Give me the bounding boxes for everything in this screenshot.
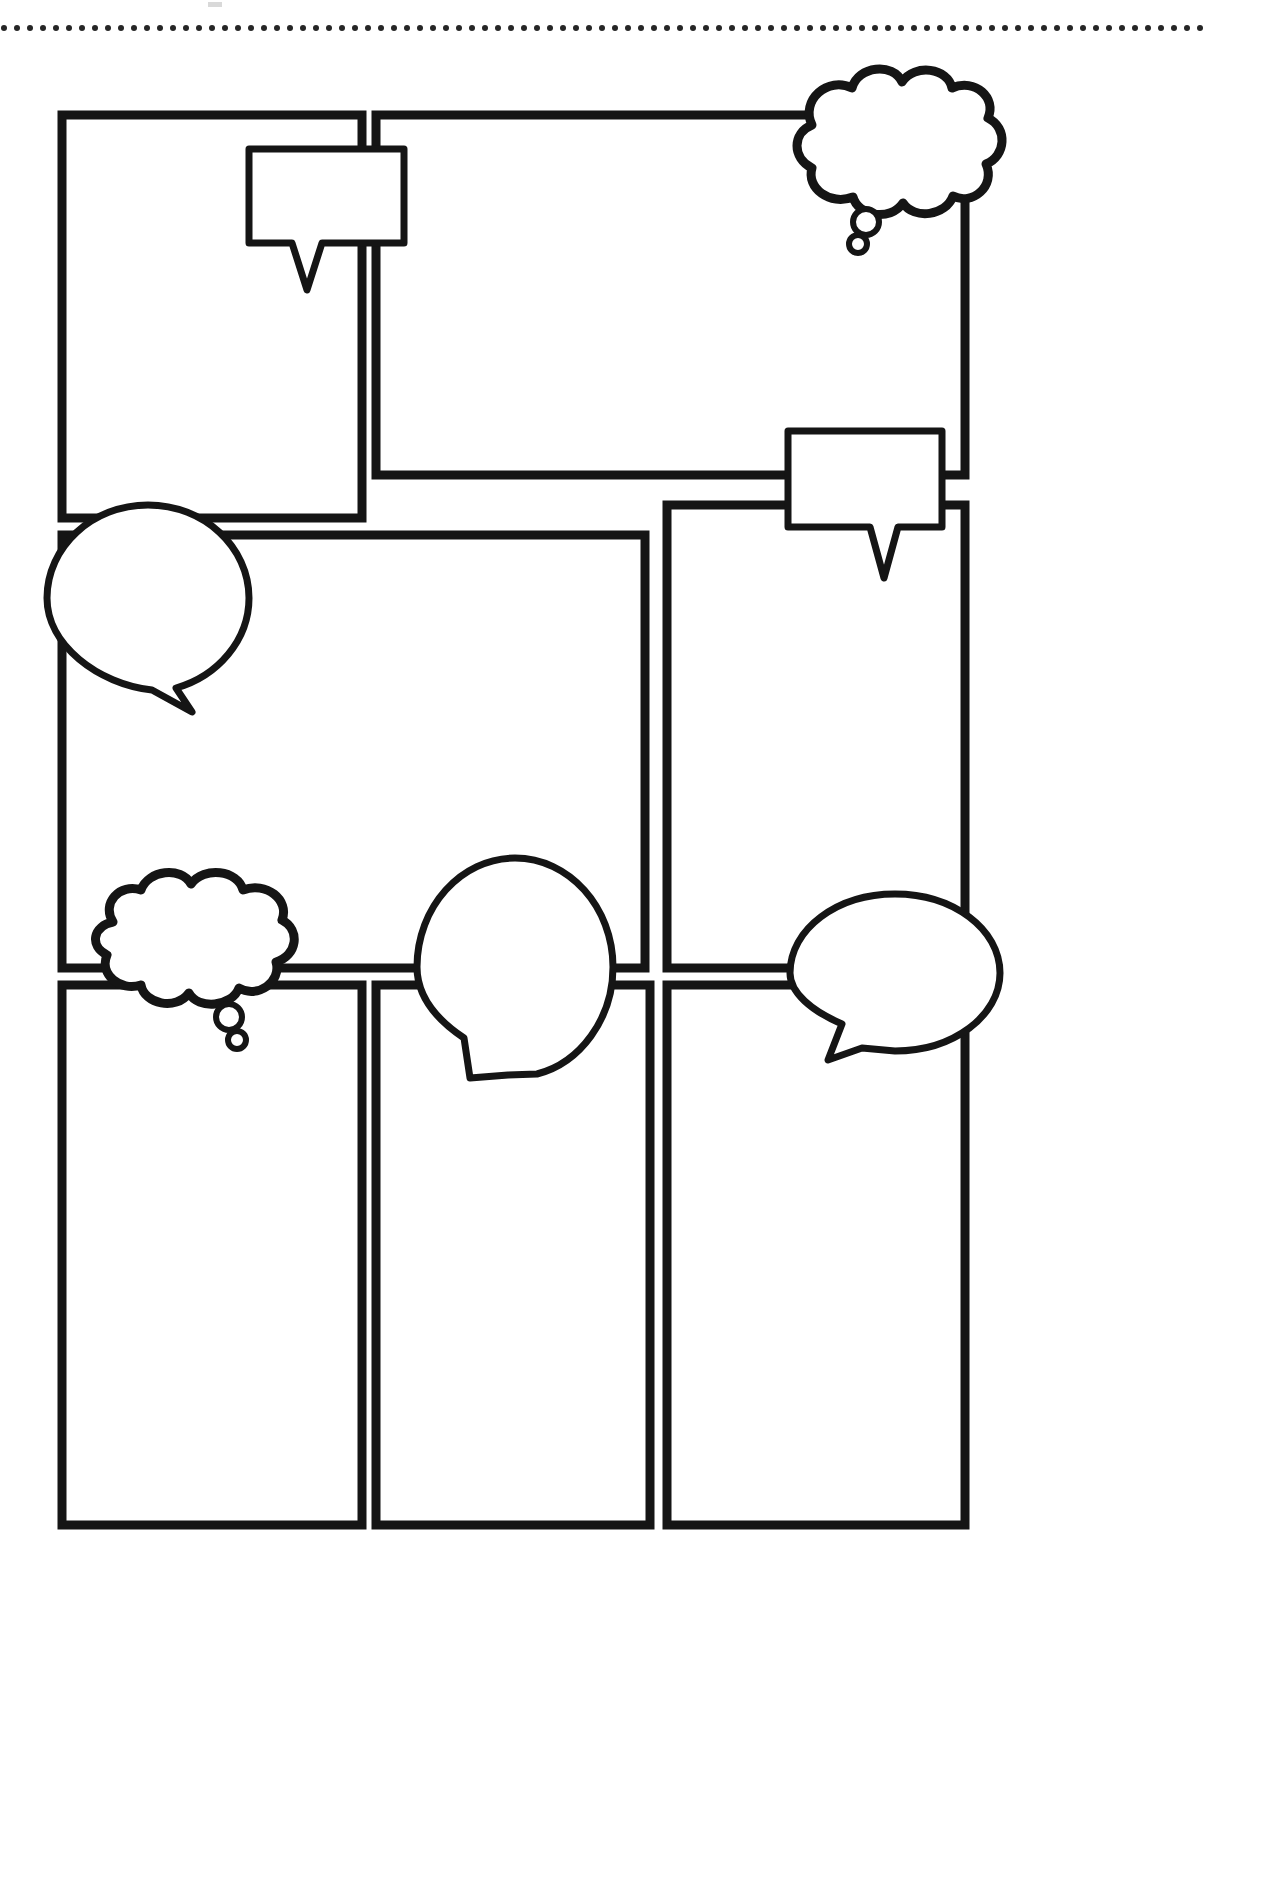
divider-dot xyxy=(1145,25,1151,31)
comic-artboard xyxy=(0,0,1270,1890)
divider-dot xyxy=(599,25,605,31)
divider-dot xyxy=(92,25,98,31)
divider-dot xyxy=(170,25,176,31)
divider-dot xyxy=(690,25,696,31)
divider-dot xyxy=(443,25,449,31)
divider-dot xyxy=(521,25,527,31)
divider-dot xyxy=(677,25,683,31)
divider-dot xyxy=(300,25,306,31)
divider-dot xyxy=(560,25,566,31)
divider-dot xyxy=(508,25,514,31)
divider-dot xyxy=(352,25,358,31)
divider-dot xyxy=(768,25,774,31)
divider-dot xyxy=(326,25,332,31)
divider-dot xyxy=(196,25,202,31)
divider-dot xyxy=(898,25,904,31)
panels-group xyxy=(62,115,965,1525)
divider-dot xyxy=(573,25,579,31)
divider-dot xyxy=(911,25,917,31)
divider-dot xyxy=(222,25,228,31)
divider-dot xyxy=(781,25,787,31)
divider-dot xyxy=(313,25,319,31)
divider-dot xyxy=(755,25,761,31)
comic-template-page xyxy=(0,0,1270,1890)
divider-dot xyxy=(703,25,709,31)
divider-dot xyxy=(417,25,423,31)
divider-dot xyxy=(144,25,150,31)
divider-dot xyxy=(1067,25,1073,31)
divider-dot xyxy=(807,25,813,31)
divider-dot xyxy=(53,25,59,31)
divider-dot xyxy=(209,25,215,31)
dotted-divider xyxy=(1,25,1203,31)
divider-dot xyxy=(456,25,462,31)
divider-dot xyxy=(66,25,72,31)
divider-dot xyxy=(430,25,436,31)
divider-dot xyxy=(1015,25,1021,31)
divider-dot xyxy=(482,25,488,31)
divider-dot xyxy=(963,25,969,31)
comic-panel-7[interactable] xyxy=(667,985,965,1525)
divider-dot xyxy=(391,25,397,31)
divider-dot xyxy=(729,25,735,31)
divider-dot xyxy=(339,25,345,31)
divider-dot xyxy=(742,25,748,31)
divider-dot xyxy=(27,25,33,31)
divider-dot xyxy=(820,25,826,31)
divider-dot xyxy=(274,25,280,31)
divider-dot xyxy=(1132,25,1138,31)
divider-dot xyxy=(118,25,124,31)
divider-dot xyxy=(40,25,46,31)
divider-dot xyxy=(1171,25,1177,31)
divider-dot xyxy=(651,25,657,31)
divider-dot xyxy=(105,25,111,31)
divider-dot xyxy=(1054,25,1060,31)
divider-dot xyxy=(534,25,540,31)
divider-dot xyxy=(235,25,241,31)
divider-dot xyxy=(378,25,384,31)
divider-dot xyxy=(157,25,163,31)
divider-dot xyxy=(1106,25,1112,31)
divider-dot xyxy=(989,25,995,31)
divider-dot xyxy=(1041,25,1047,31)
divider-dot xyxy=(976,25,982,31)
divider-dot xyxy=(131,25,137,31)
divider-dot xyxy=(1028,25,1034,31)
divider-dot xyxy=(1,25,7,31)
divider-dot xyxy=(1197,25,1203,31)
divider-dot xyxy=(885,25,891,31)
divider-dot xyxy=(248,25,254,31)
divider-dot xyxy=(404,25,410,31)
divider-dot xyxy=(664,25,670,31)
divider-dot xyxy=(1158,25,1164,31)
divider-dot xyxy=(14,25,20,31)
divider-dot xyxy=(1119,25,1125,31)
comic-panel-5[interactable] xyxy=(62,985,362,1525)
divider-dot xyxy=(1002,25,1008,31)
divider-dot xyxy=(872,25,878,31)
divider-dot xyxy=(638,25,644,31)
top-edge-artifact xyxy=(208,2,222,7)
divider-dot xyxy=(287,25,293,31)
divider-dot xyxy=(794,25,800,31)
divider-dot xyxy=(79,25,85,31)
divider-dot xyxy=(716,25,722,31)
divider-dot xyxy=(495,25,501,31)
divider-dot xyxy=(365,25,371,31)
divider-dot xyxy=(924,25,930,31)
divider-dot xyxy=(261,25,267,31)
divider-dot xyxy=(937,25,943,31)
divider-dot xyxy=(547,25,553,31)
divider-dot xyxy=(625,25,631,31)
divider-dot xyxy=(846,25,852,31)
divider-dot xyxy=(1184,25,1190,31)
divider-dot xyxy=(612,25,618,31)
divider-dot xyxy=(859,25,865,31)
divider-dot xyxy=(1080,25,1086,31)
divider-dot xyxy=(833,25,839,31)
divider-dot xyxy=(183,25,189,31)
divider-dot xyxy=(1093,25,1099,31)
divider-dot xyxy=(586,25,592,31)
divider-dot xyxy=(950,25,956,31)
divider-dot xyxy=(469,25,475,31)
